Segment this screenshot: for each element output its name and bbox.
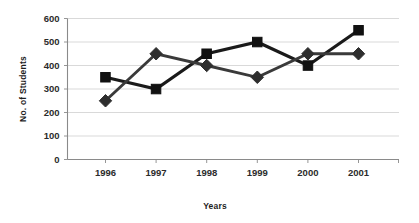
chart-canvas: 0100200300400500600 19961997199819992000… [0,0,419,223]
data-point-square-2001 [354,26,364,36]
y-axis-tick-labels: 0100200300400500600 [44,13,60,165]
data-point-diamond-1998 [201,59,213,71]
y-tick-label: 600 [44,13,60,24]
x-tick-label: 1999 [247,167,268,178]
y-axis-title: No. of Students [18,56,28,122]
data-point-diamond-2001 [352,48,364,61]
y-tick-label: 200 [44,107,60,118]
data-point-diamond-2000 [302,48,314,61]
y-tick-label: 300 [44,83,60,94]
y-tick-label: 0 [54,154,59,165]
series-line-diamond [106,54,359,101]
y-tick-label: 500 [44,36,60,47]
data-point-square-1996 [101,73,111,83]
line-chart: 0100200300400500600 19961997199819992000… [0,0,419,223]
x-tick-label: 2001 [348,167,370,178]
x-tick-label: 1997 [146,167,167,178]
data-point-square-2000 [303,61,313,71]
series-layer [99,26,364,108]
data-point-square-1999 [253,37,263,47]
series-line-square [106,30,359,89]
data-point-square-1998 [202,49,212,59]
x-tick-label: 1998 [196,167,217,178]
x-axis-tick-labels: 199619971998199920002001 [95,167,370,178]
x-axis-title: Years [203,201,227,211]
data-point-square-1997 [151,84,161,94]
y-tick-label: 400 [44,60,60,71]
x-tick-label: 1996 [95,167,116,178]
y-tick-label: 100 [44,130,60,141]
x-tick-label: 2000 [297,167,318,178]
data-point-diamond-1999 [251,71,263,84]
